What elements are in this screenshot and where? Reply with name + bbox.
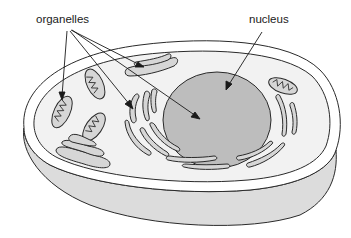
cell-diagram: [0, 0, 351, 238]
label-nucleus: nucleus: [249, 13, 289, 25]
label-organelles: organelles: [36, 13, 89, 25]
